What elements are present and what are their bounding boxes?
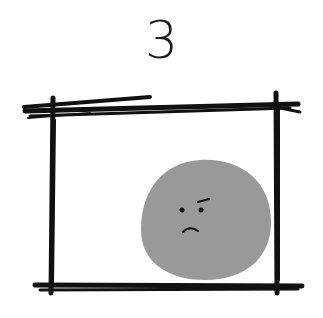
sketch-frame-illustration bbox=[0, 0, 323, 318]
frowning-face-blob bbox=[141, 160, 271, 280]
right-eye bbox=[199, 208, 204, 213]
left-eye bbox=[180, 208, 185, 213]
